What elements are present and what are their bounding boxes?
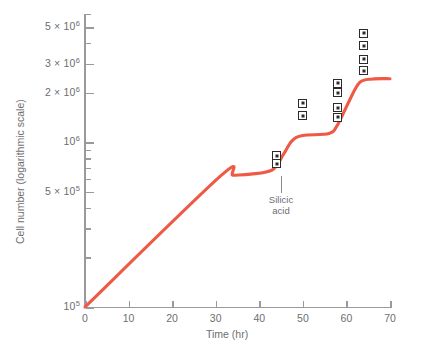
data-point-marker [272,159,281,168]
data-point-marker [333,113,342,122]
growth-curve-figure: 1055 × 1051062 × 1063 × 1065 × 106 01020… [0,0,423,351]
x-axis-major-tick [303,301,305,308]
x-axis-major-tick [216,301,218,308]
data-point-marker [359,29,368,38]
y-axis-minor-tick [86,168,91,169]
y-axis-minor-tick [86,43,91,44]
y-axis-minor-tick [86,14,91,15]
y-axis-title: Cell number (logarithmic scale) [14,99,26,244]
x-axis-major-tick [259,301,261,308]
y-axis-tick-label: 3 × 106 [4,57,80,69]
y-axis-minor-tick [86,158,91,159]
y-axis-major-tick [86,64,94,66]
x-axis-tick-label: 60 [326,312,366,324]
x-axis-tick-label: 0 [65,312,105,324]
data-point-marker [359,41,368,50]
x-axis-tick-label: 70 [370,312,410,324]
y-axis-tick-label: 2 × 106 [4,86,80,98]
data-point-marker [298,99,307,108]
data-point-marker [333,88,342,97]
y-axis-minor-tick [86,257,91,258]
x-axis-major-tick [129,301,131,308]
x-axis-title: Time (hr) [206,328,248,340]
x-axis-tick-label: 50 [283,312,323,324]
y-axis-major-tick [86,93,94,95]
x-axis-tick-label: 20 [152,312,192,324]
y-axis-major-tick [86,27,94,29]
data-point-marker [333,79,342,88]
y-axis-tick-label: 5 × 106 [4,20,80,32]
x-axis-major-tick [390,301,392,308]
x-axis-major-tick [85,301,87,308]
growth-curve-path [85,79,390,307]
y-axis-line [84,14,86,308]
silicic-acid-pointer-line [281,176,282,193]
y-axis-minor-tick [86,208,91,209]
y-axis-major-tick [86,192,94,194]
y-axis-major-tick [86,307,94,309]
x-axis-major-tick [172,301,174,308]
x-axis-tick-label: 10 [109,312,149,324]
y-axis-tick-label: 105 [4,300,80,312]
silicic-acid-annotation-line1: Silicic [256,194,306,205]
data-point-marker [359,55,368,64]
x-axis-tick-label: 40 [239,312,279,324]
x-axis-tick-label: 30 [196,312,236,324]
silicic-acid-annotation-line2: acid [256,205,306,216]
curve-layer [0,0,423,351]
data-point-marker [333,103,342,112]
y-axis-major-tick [86,142,94,144]
x-axis-major-tick [346,301,348,308]
data-point-marker [272,151,281,160]
y-axis-minor-tick [86,179,91,180]
y-axis-minor-tick [86,228,91,229]
y-axis-minor-tick [86,150,91,151]
data-point-marker [298,111,307,120]
data-point-marker [359,66,368,75]
